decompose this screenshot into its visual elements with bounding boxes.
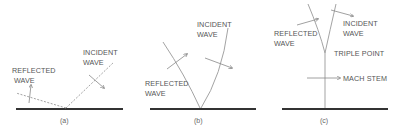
panel-a: REFLECTED WAVE INCIDENT WAVE (a)	[12, 48, 123, 125]
incident-direction-arrow-b	[205, 58, 232, 68]
reflected-wave-label-c-2: WAVE	[274, 39, 295, 48]
reflected-direction-arrow-a	[29, 85, 31, 103]
incident-wave-label-b: INCIDENT	[197, 20, 232, 29]
caption-a: (a)	[60, 117, 69, 125]
triple-point-label: TRIPLE POINT	[334, 49, 385, 58]
caption-b: (b)	[194, 117, 203, 125]
panel-c: REFLECTED WAVE INCIDENT WAVE TRIPLE POIN…	[274, 4, 388, 125]
mach-stem-label: MACH STEM	[343, 74, 387, 83]
reflected-wave-label-c: REFLECTED	[274, 29, 318, 38]
reflected-direction-arrow-b	[167, 54, 187, 69]
reflected-wave-label-b: REFLECTED	[145, 79, 189, 88]
incident-wave-label-c: INCIDENT	[343, 19, 378, 28]
shock-reflection-diagram: REFLECTED WAVE INCIDENT WAVE (a) INCIDEN…	[0, 0, 402, 134]
reflected-wave-a	[16, 93, 66, 108]
incident-wave-b	[201, 28, 228, 108]
reflected-wave-b	[163, 42, 200, 108]
incident-wave-label-a: INCIDENT	[83, 48, 118, 57]
reflected-wave-label-a: REFLECTED	[12, 66, 56, 75]
incident-wave-c	[325, 4, 336, 53]
incident-wave-label-b-2: WAVE	[197, 30, 218, 39]
reflected-wave-label-a-2: WAVE	[14, 76, 35, 85]
reflected-wave-label-b-2: WAVE	[145, 89, 166, 98]
panel-b: INCIDENT WAVE REFLECTED WAVE (b)	[145, 20, 256, 125]
caption-c: (c)	[320, 117, 328, 125]
incident-wave-label-c-2: WAVE	[343, 29, 364, 38]
incident-wave-a	[66, 62, 114, 108]
incident-direction-arrow-a	[89, 75, 104, 88]
incident-wave-label-a-2: WAVE	[83, 58, 104, 67]
